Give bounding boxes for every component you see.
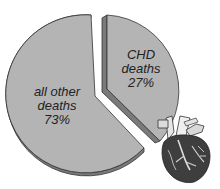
chd-label-pct: 27% [127,75,154,90]
chd-label-line2: deaths [121,61,161,76]
pie-chart: all other deaths 73% CHD deaths 27% [0,0,220,189]
heart-icon [158,116,210,183]
other-label-pct: 73% [44,112,70,127]
other-label-line1: all other [34,84,81,99]
other-label-line2: deaths [37,98,77,113]
chd-label-line1: CHD [127,47,155,62]
